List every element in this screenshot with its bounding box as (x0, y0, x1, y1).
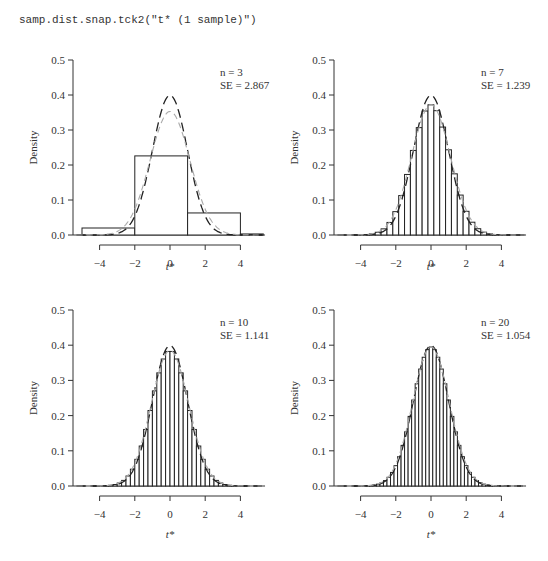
histogram-panel-3: 0.00.10.20.30.40.5−4−2024Densityt*n = 10… (27, 304, 269, 540)
x-tick-label: 4 (238, 257, 244, 269)
y-tick-label: 0.3 (312, 374, 326, 386)
histogram-bar (412, 400, 416, 486)
x-tick-label: 2 (463, 508, 469, 520)
sample-size-annotation: n = 20 (481, 316, 510, 328)
sample-size-annotation: n = 3 (220, 66, 243, 78)
histogram-bar (426, 350, 430, 486)
sample-size-annotation: n = 10 (220, 316, 249, 328)
histogram-bar (428, 105, 434, 235)
histogram-bar (201, 459, 205, 486)
x-axis-label: t* (427, 528, 436, 540)
histogram-bar (161, 359, 165, 486)
histogram-bar (387, 477, 391, 486)
histogram-panel-4: 0.00.10.20.30.40.5−4−2024Densityt*n = 20… (288, 304, 531, 540)
histogram-bar (433, 350, 437, 486)
y-tick-label: 0.0 (51, 480, 65, 492)
standard-error-annotation: SE = 2.867 (220, 79, 270, 91)
histogram-panel-2: 0.00.10.20.30.40.5−4−2024Densityt*n = 7S… (288, 54, 531, 272)
histogram-bar (447, 400, 451, 486)
histogram-bar (415, 384, 419, 486)
x-tick-label: −2 (390, 257, 402, 269)
y-tick-label: 0.5 (312, 304, 326, 316)
x-tick-label: −4 (94, 257, 106, 269)
standard-error-annotation: SE = 1.054 (481, 329, 531, 341)
histogram-bar (419, 369, 423, 486)
histogram-bar (454, 432, 458, 486)
x-tick-label: 4 (499, 508, 505, 520)
histogram-bar (152, 391, 156, 486)
y-tick-label: 0.2 (312, 159, 326, 171)
x-tick-label: 2 (202, 257, 208, 269)
y-axis-label: Density (27, 130, 39, 165)
x-axis-label: t* (166, 260, 175, 272)
y-tick-label: 0.3 (312, 124, 326, 136)
y-tick-label: 0.0 (51, 229, 65, 241)
histogram-bar (139, 446, 143, 486)
x-tick-label: −4 (355, 257, 367, 269)
histogram-bar (405, 174, 411, 235)
histogram-bar (408, 416, 412, 486)
y-axis-label: Density (27, 380, 39, 415)
y-tick-label: 0.5 (312, 54, 326, 66)
x-tick-label: 2 (202, 508, 208, 520)
y-axis-label: Density (288, 380, 300, 415)
y-tick-label: 0.4 (312, 339, 326, 351)
x-tick-label: 2 (463, 257, 469, 269)
x-axis-label: t* (427, 260, 436, 272)
histogram-bar (457, 445, 461, 486)
histogram-bar (410, 150, 416, 235)
y-tick-label: 0.2 (51, 159, 65, 171)
y-tick-label: 0.1 (51, 445, 65, 457)
y-tick-label: 0.5 (51, 54, 65, 66)
y-tick-label: 0.5 (51, 304, 65, 316)
histogram-bar (188, 411, 192, 486)
histogram-bar (440, 127, 446, 235)
y-tick-label: 0.1 (312, 194, 326, 206)
y-tick-label: 0.4 (51, 339, 65, 351)
histogram-bar (416, 128, 422, 235)
histogram-bar (183, 391, 187, 486)
histogram-bar (157, 373, 161, 486)
histogram-bar (440, 369, 444, 486)
x-tick-label: −2 (129, 508, 141, 520)
histogram-grid: 0.00.10.20.30.40.5−4−2024Densityt*n = 3S… (0, 0, 548, 561)
y-tick-label: 0.0 (312, 229, 326, 241)
x-tick-label: 0 (428, 508, 434, 520)
histogram-bar (401, 445, 405, 486)
histogram-bar (376, 484, 380, 486)
histogram-bar (451, 174, 457, 235)
histogram-bar (446, 150, 452, 235)
histogram-bar (166, 351, 170, 486)
x-axis-label: t* (166, 528, 175, 540)
histogram-bar (179, 373, 183, 486)
x-tick-label: −2 (390, 508, 402, 520)
y-tick-label: 0.2 (312, 410, 326, 422)
histogram-bar (144, 429, 148, 486)
standard-error-annotation: SE = 1.141 (220, 329, 269, 341)
histogram-bar (135, 156, 188, 235)
y-tick-label: 0.1 (51, 194, 65, 206)
x-tick-label: −2 (129, 257, 141, 269)
y-tick-label: 0.4 (51, 89, 65, 101)
x-tick-label: −4 (355, 508, 367, 520)
histogram-bar (429, 347, 433, 486)
histogram-bar (405, 432, 409, 486)
histogram-bar (196, 446, 200, 486)
histogram-bar (170, 351, 174, 486)
histogram-bar (463, 211, 469, 235)
y-tick-label: 0.1 (312, 445, 326, 457)
histogram-bar (422, 357, 426, 486)
y-tick-label: 0.2 (51, 410, 65, 422)
y-tick-label: 0.4 (312, 89, 326, 101)
histogram-bar (450, 416, 454, 486)
histogram-panel-1: 0.00.10.20.30.40.5−4−2024Densityt*n = 3S… (27, 54, 270, 272)
histogram-bar (174, 359, 178, 486)
histogram-bar (192, 429, 196, 486)
x-tick-label: −4 (94, 508, 106, 520)
y-tick-label: 0.3 (51, 374, 65, 386)
histogram-bar (148, 411, 152, 486)
sample-size-annotation: n = 7 (481, 66, 504, 78)
histogram-bar (443, 384, 447, 486)
y-axis-label: Density (288, 130, 300, 165)
histogram-bar (399, 196, 405, 235)
